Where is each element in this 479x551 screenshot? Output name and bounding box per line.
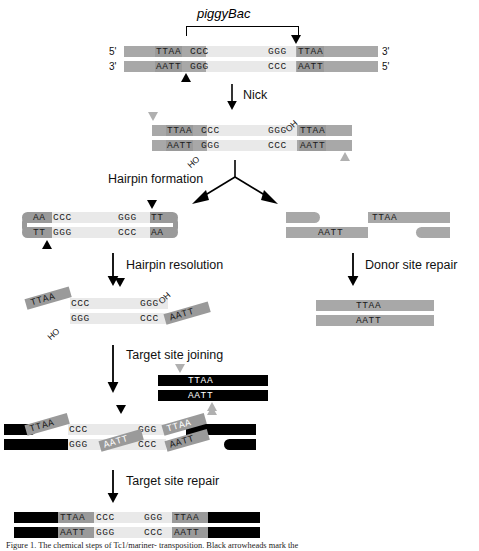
integrated-seq-aatt-right: AATT — [174, 527, 199, 538]
figure-canvas: piggyBac TTAA CCC GGG TTAA AATT GGG CCC … — [0, 0, 479, 551]
nick-arrowhead-top-gray — [148, 112, 158, 121]
hairpin-seq-tt-bottom: TT — [33, 227, 46, 238]
joined-seq-ccc-right: CCC — [138, 439, 157, 450]
integrated-seq-ccc: CCC — [96, 512, 115, 523]
target-joining-arrow — [106, 345, 120, 393]
resolved-seq-ccc-top: CCC — [71, 298, 90, 309]
cleavage-arrowhead-top — [291, 35, 301, 44]
end-label-3prime-top-right: 3' — [382, 46, 389, 57]
integrated-target-right-top — [208, 512, 260, 523]
integrated-seq-aatt-left: AATT — [60, 527, 85, 538]
hairpin-arrowhead-top — [147, 200, 157, 209]
joined-seq-ccc-left: CCC — [69, 424, 88, 435]
integrated-seq-ttaa-right: TTAA — [174, 512, 199, 523]
target-seq-aatt: AATT — [188, 390, 213, 401]
hairpin-seq-aa-top: AA — [33, 212, 46, 223]
hairpin-seq-aa-bottom: AA — [151, 227, 164, 238]
step-label-hairpin-resolution: Hairpin resolution — [126, 258, 223, 272]
seq-ttaa-right-top: TTAA — [297, 46, 324, 57]
end-label-3prime-bottom-left: 3' — [109, 61, 116, 72]
resolved-seq-ttaa: TTAA — [29, 291, 56, 309]
integrated-seq-ccc-right: CCC — [144, 527, 163, 538]
step-label-target-site-joining: Target site joining — [126, 348, 223, 362]
donor-frag-seq-aatt: AATT — [318, 227, 343, 238]
hairpin-seq-ccc-top: CCC — [53, 212, 72, 223]
donor-repair-arrow — [346, 253, 360, 286]
end-label-5prime-bottom-right: 5' — [382, 61, 389, 72]
step-label-donor-site-repair: Donor site repair — [365, 258, 457, 272]
joined-arrowhead-gray — [207, 406, 217, 415]
joined-seq-ttaa-left: TTAA — [28, 417, 55, 435]
branch-arrows — [180, 160, 290, 208]
resolved-seq-ccc-bottom: CCC — [140, 313, 159, 324]
target-arrowhead-top-gray — [175, 364, 185, 373]
integrated-target-right-bottom — [208, 527, 260, 538]
joined-seq-ggg-left: GGG — [69, 439, 88, 450]
joined-arrowhead-black — [116, 405, 126, 414]
resolved-overhang-ttaa: TTAA — [24, 287, 71, 310]
hairpin-seq-ccc-bottom: CCC — [118, 227, 137, 238]
donor-frag-bottom-right — [416, 227, 450, 238]
seq-aatt-left-bottom: AATT — [155, 61, 182, 72]
resolved-ho-label: HO — [45, 326, 61, 342]
target-repair-arrow — [106, 470, 120, 503]
seq-ccc-left-top: CCC — [190, 46, 209, 57]
donor-frag-seq-ttaa: TTAA — [372, 212, 397, 223]
repaired-donor-seq-ttaa: TTAA — [356, 300, 381, 311]
integrated-seq-ggg-left: GGG — [96, 527, 115, 538]
nicked-seq-ttaa-left: TTAA — [166, 125, 193, 136]
donor-frag-top-left — [286, 212, 320, 223]
nicked-seq-aatt-left: AATT — [166, 140, 193, 151]
nicked-seq-ccc-left: CCC — [201, 125, 220, 136]
nick-arrow — [225, 84, 239, 110]
resolved-seq-aatt: AATT — [168, 306, 195, 324]
end-label-5prime-top-left: 5' — [109, 46, 116, 57]
joined-overhang-ttaa-left: TTAA — [24, 413, 69, 436]
seq-aatt-right-bottom: AATT — [297, 61, 324, 72]
nicked-seq-ggg-left: GGG — [201, 140, 220, 151]
nicked-seq-ccc-right: CCC — [268, 140, 287, 151]
integrated-seq-ttaa-left: TTAA — [60, 512, 85, 523]
integrated-target-left-top — [14, 512, 58, 523]
seq-ggg-left-bottom: GGG — [190, 61, 209, 72]
piggybac-label: piggyBac — [197, 6, 250, 21]
integrated-seq-ggg-right: GGG — [144, 512, 163, 523]
resolved-seq-ggg-bottom: GGG — [71, 313, 90, 324]
cleavage-arrowhead-bottom — [181, 73, 191, 82]
resolved-arrowhead — [115, 278, 125, 287]
joined-target-left-bottom — [4, 439, 74, 450]
integrated-target-left-bottom — [14, 527, 58, 538]
hairpin-loop-right — [162, 212, 178, 238]
step-label-nick: Nick — [243, 88, 267, 102]
seq-ccc-right-bottom: CCC — [268, 61, 287, 72]
repaired-donor-seq-aatt: AATT — [356, 315, 381, 326]
joined-target-right-bottom — [224, 439, 256, 450]
hairpin-seq-tt-top: TT — [151, 212, 164, 223]
resolved-overhang-aatt: AATT — [163, 302, 210, 325]
resolved-seq-ggg-top: GGG — [140, 298, 159, 309]
seq-ggg-right-top: GGG — [268, 46, 287, 57]
step-label-target-site-repair: Target site repair — [126, 474, 219, 488]
nicked-seq-aatt-right: AATT — [299, 140, 326, 151]
target-seq-ttaa: TTAA — [188, 375, 213, 386]
nick-arrowhead-bottom-gray — [340, 152, 350, 161]
joined-seq-aatt-right: AATT — [168, 433, 195, 451]
seq-ttaa-left-top: TTAA — [155, 46, 182, 57]
figure-caption: Figure 1. The chemical steps of Tc1/mari… — [6, 541, 476, 551]
hairpin-seq-ggg-bottom: GGG — [53, 227, 72, 238]
hairpin-arrowhead-bottom — [42, 240, 52, 249]
nicked-seq-ttaa-right: TTAA — [299, 125, 326, 136]
piggybac-bracket — [186, 26, 299, 36]
hairpin-seq-ggg-top: GGG — [118, 212, 137, 223]
